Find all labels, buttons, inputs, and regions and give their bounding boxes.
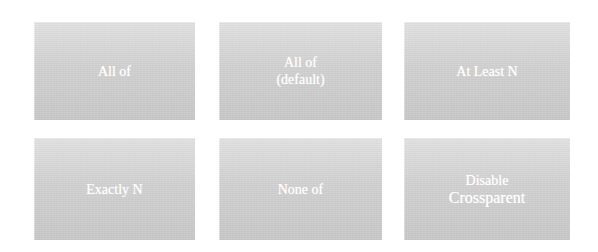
exactly-n-button[interactable]: Exactly N — [34, 138, 195, 240]
at-least-n-label: At Least N — [456, 63, 517, 80]
exactly-n-label: Exactly N — [86, 181, 142, 198]
option-tile-grid: All of All of (default) At Least N Exact… — [0, 0, 598, 252]
none-of-label: None of — [278, 181, 324, 198]
all-of-default-label-line2: (default) — [276, 71, 324, 88]
disable-crossparent-label-line1: Disable — [449, 172, 525, 189]
disable-crossparent-label-line2: Crossparent — [449, 189, 525, 207]
all-of-button[interactable]: All of — [34, 22, 195, 120]
all-of-default-label-line1: All of — [276, 54, 324, 71]
all-of-default-button[interactable]: All of (default) — [219, 22, 382, 120]
disable-crossparent-button[interactable]: Disable Crossparent — [404, 138, 570, 240]
none-of-button[interactable]: None of — [219, 138, 382, 240]
at-least-n-button[interactable]: At Least N — [404, 22, 570, 120]
all-of-label: All of — [98, 63, 131, 80]
